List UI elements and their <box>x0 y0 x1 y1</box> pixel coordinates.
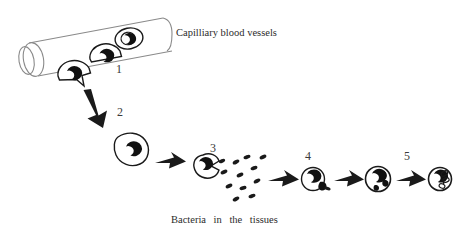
arrow-stage1-to-stage2 <box>84 89 108 128</box>
stage-label-1: 1 <box>116 63 122 75</box>
phagocytosis-diagram: Capilliary blood vessels Bacteria in the… <box>0 0 475 240</box>
stage-label-5: 5 <box>404 150 410 162</box>
arrow-stage3-to-stage4 <box>268 170 299 187</box>
arrow-vacuole-to-stage5 <box>396 170 426 187</box>
capillary-label: Capilliary blood vessels <box>176 28 277 39</box>
leukocyte-capillary-middle <box>90 44 122 63</box>
leukocyte-stage5 <box>429 168 452 191</box>
arrow-stage2-to-stage3 <box>155 152 186 169</box>
stage-label-2: 2 <box>117 106 123 118</box>
leukocyte-emigrating <box>58 61 91 86</box>
stage-label-3: 3 <box>210 142 216 154</box>
leukocyte-stage3 <box>194 154 219 178</box>
stage-label-4: 4 <box>305 150 311 162</box>
arrow-stage4-to-vacuole-stage <box>334 170 364 187</box>
leukocyte-stage2 <box>114 133 148 165</box>
leukocyte-stage4 <box>302 168 332 192</box>
leukocyte-with-vacuoles <box>366 167 391 192</box>
bacteria-caption: Bacteria in the tissues <box>171 215 278 226</box>
bacteria-cluster <box>218 154 267 203</box>
